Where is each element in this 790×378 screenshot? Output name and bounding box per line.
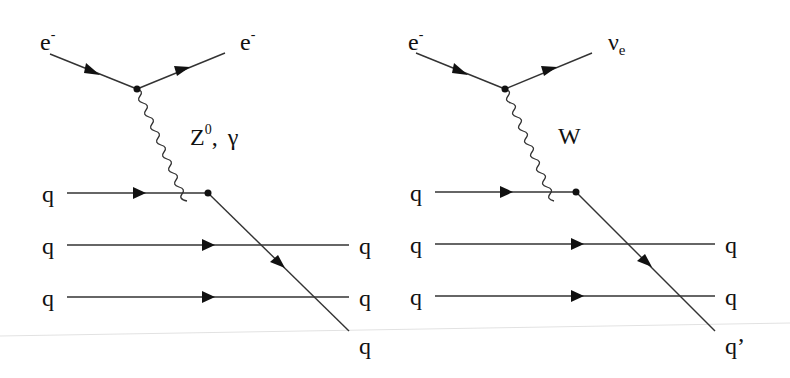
- label-quark-in-2: q: [410, 232, 422, 258]
- label-quark-out-2: q: [359, 285, 371, 311]
- vertex-quark: [573, 189, 580, 196]
- label-boson: W: [558, 123, 581, 149]
- boson-wavy-line: [137, 89, 187, 201]
- label-incoming-electron: e-: [40, 27, 56, 55]
- label-quark-in-3: q: [410, 284, 422, 310]
- vertex-lepton: [502, 86, 509, 93]
- label-quark-in-1: q: [410, 180, 422, 206]
- label-quark-out-2: q: [725, 284, 737, 310]
- label-incoming-electron: e-: [408, 27, 424, 55]
- feynman-diagrams: e- e- Z0,γ q q q q q q e- νe W q q q q q: [0, 0, 790, 378]
- label-quark-out-1: q: [359, 233, 371, 259]
- diagram-charged-current: e- νe W q q q q q q’: [408, 27, 745, 359]
- label-quark-out-1: q: [725, 232, 737, 258]
- arrow-icon: [202, 239, 215, 251]
- arrow-icon: [270, 255, 285, 268]
- arrow-icon: [202, 291, 215, 303]
- arrow-icon: [84, 63, 100, 75]
- arrow-icon: [133, 187, 146, 199]
- arrow-icon: [174, 66, 190, 76]
- label-quark-in-3: q: [42, 285, 54, 311]
- diagram-neutral-current: e- e- Z0,γ q q q q q q: [40, 27, 371, 359]
- label-boson: Z0,γ: [190, 122, 239, 150]
- arrow-icon: [541, 66, 557, 76]
- arrow-icon: [500, 186, 513, 198]
- arrow-icon: [571, 290, 584, 302]
- label-outgoing-neutrino: νe: [608, 29, 626, 58]
- label-quark-in-2: q: [42, 233, 54, 259]
- vertex-lepton: [134, 86, 141, 93]
- label-quark-in-1: q: [42, 181, 54, 207]
- page-rule: [0, 323, 790, 336]
- label-quark-out-3: q’: [725, 333, 745, 359]
- label-quark-out-3: q: [359, 333, 371, 359]
- vertex-quark: [205, 190, 212, 197]
- arrow-icon: [571, 238, 584, 250]
- boson-wavy-line: [505, 89, 554, 201]
- label-outgoing-electron: e-: [240, 27, 256, 55]
- arrow-icon: [452, 63, 468, 75]
